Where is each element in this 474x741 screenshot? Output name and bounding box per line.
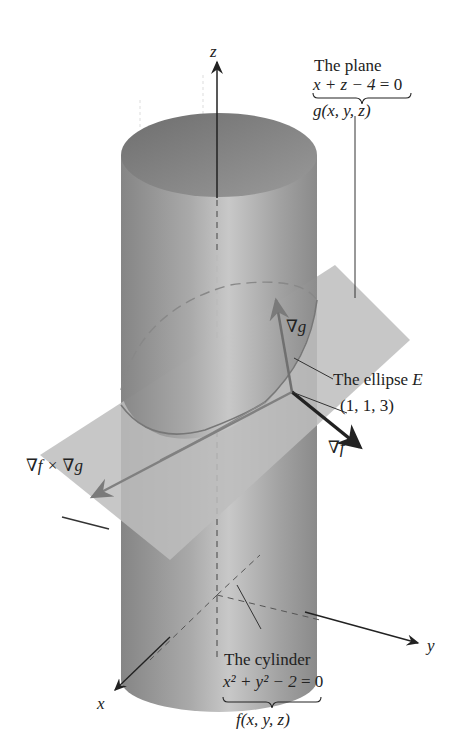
point-label: (1, 1, 3) <box>340 396 394 416</box>
y-axis-label: y <box>427 636 435 656</box>
cylinder-equation: x² + y² − 2 = 0 <box>223 672 323 692</box>
plane-equation: x + z − 4 = 0 <box>313 75 402 95</box>
plane-equation-left: x + z − 4 <box>313 75 376 94</box>
cross-product-label: ∇f × ∇g <box>26 456 83 476</box>
grad-g-label: ∇g <box>286 317 306 337</box>
cylinder-equation-left: x² + y² − 2 <box>223 672 297 691</box>
cylinder-equation-right: = 0 <box>301 672 323 691</box>
ellipse-label: The ellipse E <box>333 370 423 390</box>
plane-function: g(x, y, z) <box>313 101 371 121</box>
plane-equation-right: = 0 <box>380 75 402 94</box>
y-axis <box>305 612 418 643</box>
ellipse-label-text: The ellipse <box>333 370 408 389</box>
x-axis-label: x <box>97 694 105 714</box>
z-axis-label: z <box>210 42 217 62</box>
cylinder-title: The cylinder <box>224 650 310 670</box>
grad-f-label: ∇f <box>328 438 345 458</box>
cylinder-function: f(x, y, z) <box>236 710 290 730</box>
plane-title: The plane <box>314 56 382 76</box>
ellipse-symbol: E <box>412 370 422 389</box>
